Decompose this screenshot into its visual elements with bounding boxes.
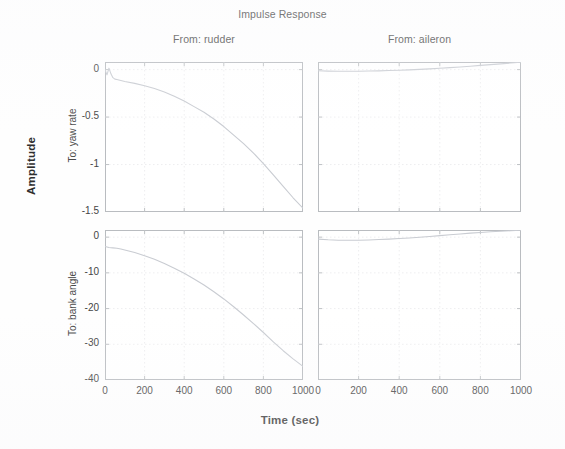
x-tick-label: 0 <box>296 385 340 396</box>
y-tick-label: 0 <box>59 230 99 241</box>
subplot-canvas <box>105 230 303 380</box>
x-tick-label: 400 <box>162 385 206 396</box>
x-tick-label: 600 <box>418 385 462 396</box>
response-curve <box>318 230 521 240</box>
x-tick-label: 600 <box>202 385 246 396</box>
row-title-yaw-rate: To: yaw rate <box>67 81 78 191</box>
column-title-rudder: From: rudder <box>105 33 303 45</box>
y-axis-label: Amplitude <box>25 111 37 221</box>
x-tick-label: 0 <box>83 385 127 396</box>
subplot-canvas <box>318 230 521 380</box>
y-tick-label: -1.5 <box>59 205 99 216</box>
y-tick-label: -0.5 <box>59 110 99 121</box>
response-curve <box>105 246 303 366</box>
y-tick-label: 0 <box>59 63 99 74</box>
subplot-canvas <box>318 62 521 212</box>
x-tick-label: 1000 <box>499 385 543 396</box>
subplot-bank-angle-aileron <box>318 230 521 380</box>
y-tick-label: -20 <box>59 302 99 313</box>
y-tick-label: -10 <box>59 266 99 277</box>
column-title-aileron: From: aileron <box>318 33 521 45</box>
subplot-yaw-rate-rudder <box>105 62 303 212</box>
subplot-yaw-rate-aileron <box>318 62 521 212</box>
x-tick-label: 400 <box>377 385 421 396</box>
subplot-bank-angle-rudder <box>105 230 303 380</box>
response-curve <box>105 68 303 208</box>
subplot-canvas <box>105 62 303 212</box>
x-axis-label: Time (sec) <box>105 414 475 426</box>
y-tick-label: -1 <box>59 158 99 169</box>
y-tick-label: -30 <box>59 337 99 348</box>
x-tick-label: 200 <box>337 385 381 396</box>
x-tick-label: 800 <box>241 385 285 396</box>
x-tick-label: 800 <box>458 385 502 396</box>
y-tick-label: -40 <box>59 373 99 384</box>
figure-title: Impulse Response <box>0 8 565 20</box>
x-tick-label: 200 <box>123 385 167 396</box>
impulse-response-figure: Impulse Response From: rudder From: aile… <box>0 0 565 449</box>
